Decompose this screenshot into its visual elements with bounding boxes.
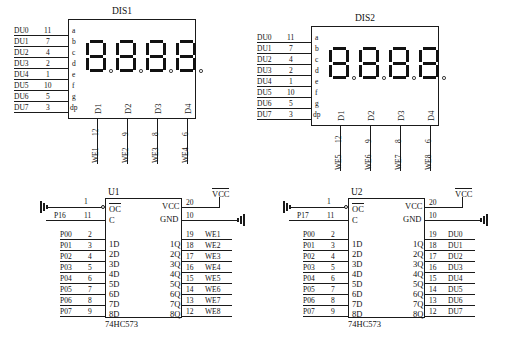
pin-number: 4 (289, 56, 293, 64)
pin-name: 7Q (413, 300, 423, 309)
pin-number: 12 (335, 136, 343, 144)
pin-name: 4Q (170, 270, 180, 279)
digit-label: D2 (367, 111, 376, 121)
pin-number: 7 (46, 38, 50, 46)
inverting-bubble-oc (101, 205, 105, 209)
digit-label: D1 (94, 104, 103, 114)
dis2-ref-label: DIS2 (355, 14, 375, 24)
pin-name: 8Q (413, 310, 423, 319)
pin-name: 6Q (170, 290, 180, 299)
pin-number: 18 (186, 242, 194, 250)
pin-number: 10 (186, 212, 194, 220)
pin-name-gnd: GND (160, 215, 178, 224)
pin-name: 8Q (170, 310, 180, 319)
pin-number: 6 (182, 132, 190, 136)
pin-name: 7D (109, 300, 119, 309)
u1-part-label: 74HC573 (105, 320, 138, 329)
net-label: DU5 (14, 82, 29, 90)
pin-name: 3Q (413, 260, 423, 269)
pin-number: 8 (88, 297, 92, 305)
net-label: WE8 (205, 308, 220, 316)
net-label: DU7 (257, 111, 272, 119)
net-label: P06 (60, 297, 72, 305)
net-label: DU0 (448, 231, 463, 239)
pin-number: 9 (365, 139, 373, 143)
pin-number: 9 (88, 308, 92, 316)
pin-number: 2 (88, 231, 92, 239)
pin-number: 15 (429, 275, 437, 283)
net-label: DU0 (257, 34, 272, 42)
pin-number: 4 (46, 49, 50, 57)
pin-number: 9 (122, 132, 130, 136)
pin-number: 5 (46, 93, 50, 101)
dis1-ref-label: DIS1 (112, 7, 132, 17)
net-label: WE7 (205, 297, 220, 305)
net-label: P00 (303, 231, 315, 239)
pin-number: 4 (88, 253, 92, 261)
pin-name: 6Q (413, 290, 423, 299)
pin-number: 11 (327, 212, 334, 220)
pin-name: 2Q (170, 250, 180, 259)
seven-segment-digit (176, 40, 196, 72)
pin-name: 8D (109, 310, 119, 319)
pin-number: 2 (331, 231, 335, 239)
net-label: P06 (303, 297, 315, 305)
net-label: P04 (303, 275, 315, 283)
pin-number: 2 (46, 60, 50, 68)
pin-number: 13 (429, 297, 437, 305)
net-label: DU4 (257, 78, 272, 86)
net-label: DU6 (14, 93, 29, 101)
net-label: DU1 (448, 242, 463, 250)
pin-name: 5Q (170, 280, 180, 289)
pin-name: 5D (109, 280, 119, 289)
pin-number: 6 (88, 275, 92, 283)
pin-number: 3 (331, 242, 335, 250)
pin-number: 14 (429, 286, 437, 294)
pin-name-oc: OC (109, 203, 121, 213)
digit-label: D4 (184, 104, 193, 114)
net-label: WE8 (425, 155, 433, 170)
net-label: DU7 (14, 104, 29, 112)
digit-label: D3 (397, 111, 406, 121)
net-label: DU3 (14, 60, 29, 68)
pin-number: 19 (186, 231, 194, 239)
pin-number: 7 (331, 286, 335, 294)
digit-label: D1 (337, 111, 346, 121)
net-label: WE6 (205, 286, 220, 294)
pin-name-c: C (352, 216, 358, 225)
ground-symbol (236, 214, 246, 226)
pin-number: 5 (289, 100, 293, 108)
seven-segment-digit (329, 47, 349, 79)
net-label: DU4 (14, 71, 29, 79)
pin-name: 5D (352, 280, 362, 289)
pin-number: 8 (152, 132, 160, 136)
pin-name-gnd: GND (403, 215, 421, 224)
pin-name: 1Q (170, 240, 180, 249)
ground-symbol (479, 214, 489, 226)
pin-number: 12 (186, 308, 194, 316)
pin-name: 4Q (413, 270, 423, 279)
net-label: DU5 (448, 286, 463, 294)
net-label: DU3 (257, 67, 272, 75)
net-label: WE2 (205, 242, 220, 250)
pin-number: 11 (84, 212, 91, 220)
schematic-canvas: DIS1 DU0 11 DU1 7 DU2 4 DU3 2 DU4 1 DU5 … (0, 0, 510, 348)
digit-label: D3 (154, 104, 163, 114)
net-label: P02 (60, 253, 72, 261)
pin-name: 3Q (170, 260, 180, 269)
seven-segment-digit (359, 47, 379, 79)
net-label: DU6 (257, 100, 272, 108)
net-label: DU0 (14, 27, 29, 35)
net-label: P07 (60, 308, 72, 316)
pin-number: 16 (186, 264, 194, 272)
inverting-bubble-oc (344, 205, 348, 209)
net-label: DU5 (257, 89, 272, 97)
pin-name-vcc: VCC (405, 202, 422, 211)
net-label: P04 (60, 275, 72, 283)
vcc-net-label: VCC (212, 188, 229, 198)
pin-number: 6 (425, 139, 433, 143)
net-label: DU2 (14, 49, 29, 57)
pin-name: 7D (352, 300, 362, 309)
pin-number: 8 (395, 139, 403, 143)
pin-number: 2 (289, 67, 293, 75)
